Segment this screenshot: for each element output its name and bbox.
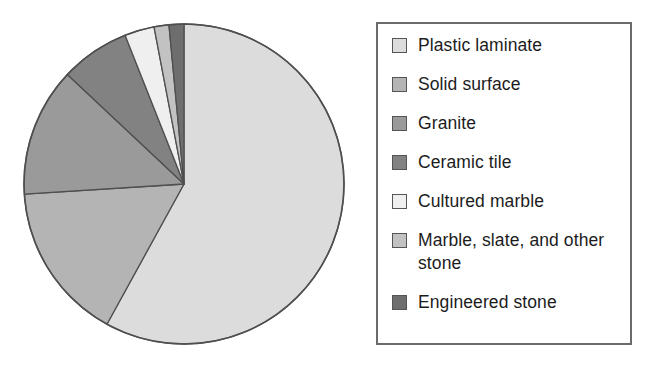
legend-swatch-icon — [392, 77, 407, 92]
legend-item-label: Plastic laminate — [418, 34, 542, 57]
legend-item: Granite — [378, 112, 630, 135]
legend-item: Marble, slate, and other stone — [378, 229, 630, 275]
legend-swatch-icon — [392, 295, 407, 310]
legend-swatch-icon — [392, 155, 407, 170]
legend-item-label: Ceramic tile — [418, 151, 512, 174]
legend-swatch-icon — [392, 38, 407, 53]
legend-item: Plastic laminate — [378, 34, 630, 57]
legend-swatch-icon — [392, 233, 407, 248]
legend-swatch-icon — [392, 194, 407, 209]
legend-item: Cultured marble — [378, 190, 630, 213]
legend-list: Plastic laminateSolid surfaceGraniteCera… — [378, 34, 630, 314]
legend-item-label: Cultured marble — [418, 190, 544, 213]
legend-item-label: Marble, slate, and other stone — [418, 229, 616, 275]
chart-legend: Plastic laminateSolid surfaceGraniteCera… — [376, 22, 632, 345]
legend-item-label: Solid surface — [418, 73, 520, 96]
legend-item: Solid surface — [378, 73, 630, 96]
pie-chart-graphic — [23, 23, 345, 345]
legend-item-label: Engineered stone — [418, 291, 557, 314]
legend-item: Ceramic tile — [378, 151, 630, 174]
legend-item: Engineered stone — [378, 291, 630, 314]
pie-svg — [23, 23, 345, 345]
pie-chart-figure: Plastic laminateSolid surfaceGraniteCera… — [0, 0, 647, 374]
legend-item-label: Granite — [418, 112, 476, 135]
pie-slice-group — [24, 24, 344, 344]
legend-swatch-icon — [392, 116, 407, 131]
